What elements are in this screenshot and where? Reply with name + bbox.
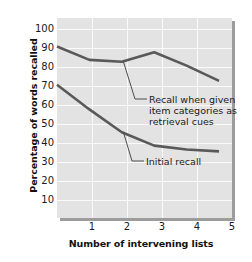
gridline-horizontal xyxy=(57,200,232,201)
y-tick-label: 20 xyxy=(28,176,54,186)
y-axis-tick-labels: 100 90 80 70 60 50 40 30 20 10 xyxy=(24,0,54,262)
annotation-cued-recall: Recall when given item categories as ret… xyxy=(149,94,237,128)
gridline-horizontal xyxy=(57,67,232,68)
y-tick-label: 10 xyxy=(28,195,54,205)
x-axis-title: Number of intervening lists xyxy=(36,238,246,249)
gridline-vertical xyxy=(127,18,128,218)
x-tick-label: 4 xyxy=(189,221,205,232)
gridline-horizontal xyxy=(57,48,232,49)
x-tick-label: 1 xyxy=(84,221,100,232)
x-tick-label: 3 xyxy=(154,221,170,232)
gridline-horizontal xyxy=(57,29,232,30)
gridline-horizontal xyxy=(57,181,232,182)
gridline-horizontal xyxy=(57,143,232,144)
y-tick-label: 100 xyxy=(28,24,54,34)
annotation-initial-recall: Initial recall xyxy=(146,156,201,167)
y-tick-label: 80 xyxy=(28,62,54,72)
gridline-horizontal xyxy=(57,162,232,163)
y-tick-label: 60 xyxy=(28,100,54,110)
y-tick-label: 90 xyxy=(28,43,54,53)
y-tick-label: 50 xyxy=(28,119,54,129)
y-tick-label: 40 xyxy=(28,138,54,148)
x-tick-label: 5 xyxy=(224,221,240,232)
y-tick-label: 30 xyxy=(28,157,54,167)
y-tick-label: 70 xyxy=(28,81,54,91)
gridline-horizontal xyxy=(57,86,232,87)
chart-figure: Percentage of words recalled 100 90 80 7… xyxy=(0,0,252,262)
x-tick-label: 2 xyxy=(119,221,135,232)
gridline-vertical xyxy=(92,18,93,218)
